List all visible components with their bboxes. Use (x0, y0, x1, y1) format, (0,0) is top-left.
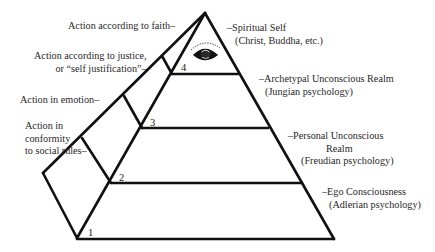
label-action-conformity: Action in conformity to social rules– (25, 120, 87, 158)
level-number-2: 2 (119, 172, 124, 183)
label-action-emotion: Action in emotion– (20, 94, 99, 107)
label-line: or “self justification”– (34, 63, 147, 76)
label-line: Action according to justice, (34, 50, 147, 63)
label-spiritual-self: –Spiritual Self (Christ, Buddha, etc.) (227, 22, 323, 47)
back-bottom-edge (43, 173, 77, 238)
label-line: Action in (25, 120, 87, 133)
label-ego-consciousness: –Ego Consciousness (Adlerian psychology) (322, 186, 421, 211)
label-line: –Spiritual Self (227, 22, 323, 35)
label-personal-unconscious: –Personal Unconscious Realm (Freudian ps… (288, 130, 394, 168)
label-line: –Personal Unconscious (288, 130, 394, 143)
label-line: Realm (288, 143, 394, 156)
label-line: (Adlerian psychology) (322, 199, 421, 212)
level-3-back-tie (124, 96, 142, 128)
level-number-4: 4 (181, 62, 186, 73)
label-line: (Christ, Buddha, etc.) (227, 35, 323, 48)
label-line: –Ego Consciousness (322, 186, 421, 199)
eye-icon (191, 43, 220, 60)
label-line: Action according to faith– (68, 20, 175, 33)
label-line: Action in emotion– (20, 94, 99, 107)
label-action-justice: Action according to justice, or “self ju… (34, 50, 147, 75)
level-4-back-tie (162, 56, 172, 74)
level-number-1: 1 (88, 227, 93, 238)
label-line: to social rules– (25, 145, 87, 158)
label-line: conformity (25, 133, 87, 146)
label-action-faith: Action according to faith– (68, 20, 175, 33)
label-line: (Freudian psychology) (288, 155, 394, 168)
level-number-3: 3 (150, 117, 155, 128)
label-line: (Jungian psychology) (259, 86, 394, 99)
label-line: –Archetypal Unconscious Realm (259, 73, 394, 86)
label-archetypal-unconscious: –Archetypal Unconscious Realm (Jungian p… (259, 73, 394, 98)
